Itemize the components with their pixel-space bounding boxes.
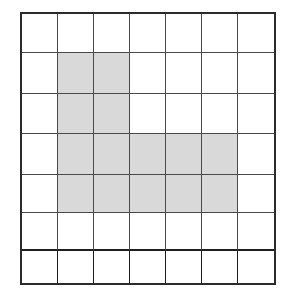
grid-cell-empty	[22, 251, 58, 283]
grid-cell-empty	[130, 14, 166, 53]
grid-cell-empty	[130, 94, 166, 134]
grid-cell-empty	[58, 251, 94, 283]
grid-cell-empty	[238, 175, 274, 213]
grid-cell-empty	[238, 53, 274, 93]
grid-cell-empty	[94, 251, 130, 283]
grid-cell-empty	[166, 53, 202, 93]
grid-cell-empty	[202, 251, 238, 283]
grid-cell-empty	[238, 213, 274, 251]
grid-cell-empty	[22, 94, 58, 134]
square-grid	[20, 12, 276, 285]
grid-cell-empty	[58, 213, 94, 251]
grid-cell-empty	[94, 14, 130, 53]
grid-cell-empty	[166, 14, 202, 53]
grid-cell-empty	[22, 53, 58, 93]
grid-cell-shaded	[166, 175, 202, 213]
grid-cell-shaded	[94, 53, 130, 93]
figure-canvas	[0, 0, 291, 297]
grid-cell-shaded	[94, 94, 130, 134]
grid-cell-empty	[58, 14, 94, 53]
grid-cell-empty	[130, 53, 166, 93]
grid-cell-shaded	[58, 134, 94, 174]
grid-cell-shaded	[58, 53, 94, 93]
grid-cell-empty	[166, 213, 202, 251]
grid-row	[22, 94, 274, 134]
grid-cell-shaded	[130, 134, 166, 174]
grid-cell-empty	[202, 94, 238, 134]
grid-cell-empty	[22, 134, 58, 174]
grid-cell-empty	[22, 175, 58, 213]
grid-cell-empty	[22, 213, 58, 251]
grid-cell-empty	[130, 251, 166, 283]
grid-row	[22, 213, 274, 251]
grid-cell-shaded	[130, 175, 166, 213]
grid-cell-shaded	[202, 175, 238, 213]
grid-cell-empty	[238, 251, 274, 283]
grid-cell-empty	[238, 14, 274, 53]
grid-cell-empty	[130, 213, 166, 251]
grid-cell-empty	[22, 14, 58, 53]
grid-cell-shaded	[58, 94, 94, 134]
grid-cell-empty	[166, 251, 202, 283]
grid-cell-empty	[238, 134, 274, 174]
grid-row	[22, 53, 274, 93]
grid-cell-empty	[94, 213, 130, 251]
grid-cell-shaded	[166, 134, 202, 174]
grid-row	[22, 175, 274, 213]
grid-cell-empty	[238, 94, 274, 134]
grid-cell-shaded	[202, 134, 238, 174]
grid-cell-shaded	[94, 134, 130, 174]
grid-row	[22, 251, 274, 283]
grid-cell-shaded	[94, 175, 130, 213]
grid-cell-empty	[202, 53, 238, 93]
grid-cell-empty	[166, 94, 202, 134]
grid-row	[22, 134, 274, 174]
grid-row	[22, 14, 274, 53]
grid-cell-shaded	[58, 175, 94, 213]
grid-cell-empty	[202, 213, 238, 251]
grid-cell-empty	[202, 14, 238, 53]
